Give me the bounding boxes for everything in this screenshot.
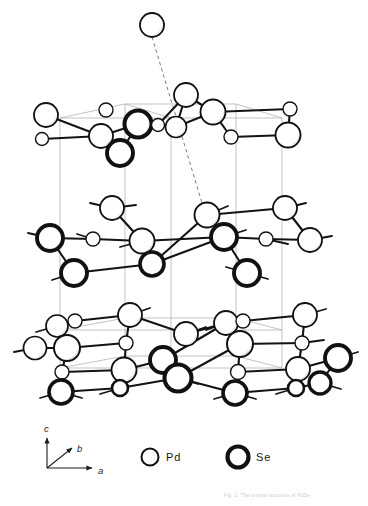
legend-label-pd: Pd [166,451,181,463]
atom-pd [119,336,133,350]
atom-pd [118,303,142,327]
atom-pd [100,196,124,220]
axis-label-b: b [77,443,82,454]
atom-pd [36,133,49,146]
atom-se [61,260,87,286]
atom-pd [259,232,273,246]
atom-se [112,380,128,396]
footer-caption: Fig. 1. The crystal structure of PdSe [224,493,310,498]
legend-symbol-pd [142,449,159,466]
atom-pd [34,103,58,127]
atom-se [49,380,73,404]
atom-pd [276,123,301,148]
atom-pd [55,365,69,379]
atom-pd [293,303,317,327]
atom-pd [286,357,310,381]
atom-pd [174,83,198,107]
atom-pd [298,228,322,252]
atom-pd [273,196,297,220]
atom-pd [130,229,155,254]
atom-pd [201,100,226,125]
atom-pd [46,315,68,337]
atom-pd [224,130,238,144]
crystal-structure-figure: cba PdSe Fig. 1. The crystal structure o… [0,0,368,506]
atom-pd [295,336,309,350]
atom-pd [227,331,253,357]
axis-label-c: c [44,423,49,434]
atom-se [107,140,133,166]
atom-pd [86,232,100,246]
atom-pd [152,119,165,132]
atom-pd [140,13,164,37]
atom-pd [236,314,250,328]
atom-se [234,260,260,286]
atom-se [309,372,331,394]
atom-se [125,111,152,138]
atom-pd [54,335,80,361]
legend-label-se: Se [256,451,271,463]
atom-pd [112,358,137,383]
axis-label-a: a [98,465,103,476]
atom-se [325,345,351,371]
atom-pd [24,337,47,360]
atom-se [165,365,192,392]
atom-pd [195,203,220,228]
atom-se [288,380,304,396]
atom-pd [174,322,198,346]
atom-se [140,252,164,276]
atom-pd [166,117,187,138]
atom-pd [99,103,113,117]
legend-symbol-se [228,447,249,468]
layer-isolated-top-atom [140,13,164,37]
atom-se [211,224,237,250]
atom-pd [283,102,297,116]
atom-se [223,381,247,405]
atom-pd [231,365,246,380]
atom-pd [68,314,82,328]
atom-se [37,225,63,251]
